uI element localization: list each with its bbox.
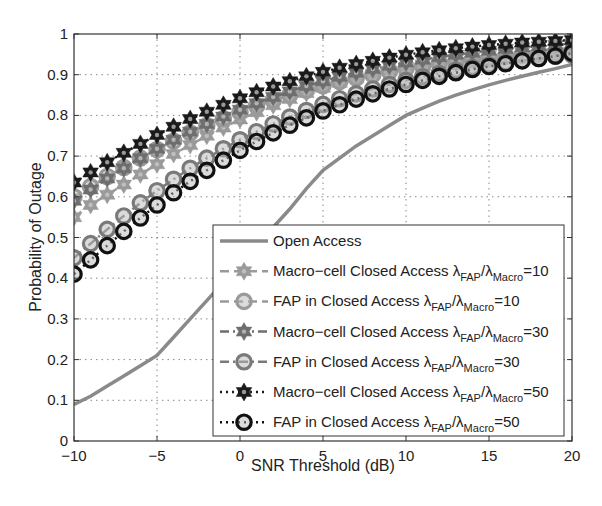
- y-tick-label: 0.1: [47, 391, 68, 408]
- circle-marker-icon: [283, 118, 297, 132]
- circle-marker-icon: [399, 77, 413, 91]
- circle-marker-icon: [299, 111, 313, 125]
- x-axis-label: SNR Threshold (dB): [251, 457, 395, 474]
- y-tick-label: 0.3: [47, 310, 68, 327]
- y-tick-label: 0.4: [47, 269, 68, 286]
- circle-marker-icon: [216, 153, 230, 167]
- circle-marker-icon: [532, 51, 546, 65]
- circle-marker-icon: [166, 186, 180, 200]
- x-tick-label: 15: [481, 447, 498, 464]
- circle-marker-icon: [233, 143, 247, 157]
- circle-marker-icon: [100, 222, 114, 236]
- y-tick-label: 0.6: [47, 188, 68, 205]
- circle-marker-icon: [150, 183, 164, 197]
- circle-marker-icon: [249, 134, 263, 148]
- y-axis-label: Probability of Outage: [27, 162, 44, 312]
- y-tick-label: 0.9: [47, 66, 68, 83]
- circle-marker-icon: [100, 238, 114, 252]
- circle-marker-icon: [432, 69, 446, 83]
- circle-marker-icon: [83, 253, 97, 267]
- circle-marker-icon: [117, 224, 131, 238]
- y-tick-label: 0.7: [47, 147, 68, 164]
- y-tick-label: 0: [60, 432, 68, 449]
- circle-marker-icon: [83, 236, 97, 250]
- circle-marker-icon: [498, 57, 512, 71]
- circle-marker-icon: [415, 73, 429, 87]
- circle-marker-icon: [332, 98, 346, 112]
- circle-marker-icon: [237, 415, 251, 429]
- circle-marker-icon: [117, 209, 131, 223]
- circle-marker-icon: [382, 82, 396, 96]
- x-tick-label: 10: [398, 447, 415, 464]
- circle-marker-icon: [349, 92, 363, 106]
- y-tick-label: 0.5: [47, 229, 68, 246]
- circle-marker-icon: [266, 126, 280, 140]
- y-tick-label: 1: [60, 25, 68, 42]
- circle-marker-icon: [366, 87, 380, 101]
- circle-marker-icon: [237, 355, 251, 369]
- circle-marker-icon: [133, 196, 147, 210]
- outage-probability-chart: −10−50510152000.10.20.30.40.50.60.70.80.…: [0, 0, 602, 506]
- legend: Open AccessMacro−cell Closed Access λFAP…: [213, 225, 564, 436]
- circle-marker-icon: [133, 211, 147, 225]
- y-tick-label: 0.8: [47, 106, 68, 123]
- circle-marker-icon: [150, 198, 164, 212]
- circle-marker-icon: [548, 49, 562, 63]
- circle-marker-icon: [482, 59, 496, 73]
- circle-marker-icon: [465, 62, 479, 76]
- circle-marker-icon: [449, 65, 463, 79]
- legend-label: Open Access: [273, 232, 361, 249]
- x-tick-label: 0: [236, 447, 244, 464]
- x-tick-label: 20: [564, 447, 581, 464]
- circle-marker-icon: [183, 174, 197, 188]
- x-tick-label: −10: [61, 447, 86, 464]
- y-tick-label: 0.2: [47, 351, 68, 368]
- circle-marker-icon: [515, 54, 529, 68]
- x-tick-label: −5: [148, 447, 165, 464]
- circle-marker-icon: [237, 294, 251, 308]
- circle-marker-icon: [316, 104, 330, 118]
- circle-marker-icon: [200, 163, 214, 177]
